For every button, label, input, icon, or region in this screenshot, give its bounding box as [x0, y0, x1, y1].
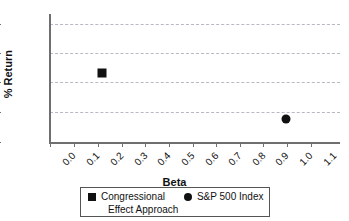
x-tick-2 — [98, 142, 99, 147]
y-tick-0: 0 — [0, 112, 1, 113]
y-tick-neg1: -1 — [0, 142, 1, 143]
x-tick-0 — [50, 142, 51, 147]
x-tick-3 — [122, 142, 123, 147]
x-tick-9 — [263, 142, 264, 147]
gridline-y0 — [50, 112, 340, 113]
legend-row-secondary: Effect Approach — [81, 204, 269, 217]
x-tick-label-3: 0.3 — [132, 150, 150, 168]
x-tick-label-1: 0.1 — [84, 150, 102, 168]
x-tick-4 — [145, 142, 146, 147]
y-tick-1: 1 — [0, 82, 1, 83]
plot-area — [50, 16, 340, 143]
x-tick-8 — [240, 142, 241, 147]
x-tick-10 — [287, 142, 288, 147]
y-tick-3: 3 — [0, 24, 1, 25]
chart-legend: Congressional S&P 500 Index Effect Appro… — [80, 187, 270, 217]
x-tick-label-11: 1.1 — [321, 150, 339, 168]
gridline-y1 — [50, 82, 340, 83]
legend-item-congressional-continuation: Effect Approach — [81, 204, 185, 216]
y-axis-title: % Return — [2, 2, 14, 50]
data-point-congressional-effect-approach[interactable] — [98, 69, 107, 78]
x-tick-label-2: 0.2 — [108, 150, 126, 168]
y-tick-2: 2 — [0, 53, 1, 54]
x-tick-label-0: 0.0 — [60, 150, 78, 168]
data-point-sp-500-index[interactable] — [282, 115, 291, 124]
x-axis-line — [50, 142, 340, 144]
x-tick-label-8: 0.8 — [250, 150, 268, 168]
legend-item-congressional-effect-approach[interactable]: Congressional — [81, 191, 184, 203]
legend-item-sp-500-index[interactable]: S&P 500 Index — [184, 191, 269, 203]
square-marker-icon — [88, 193, 96, 201]
x-tick-6 — [193, 142, 194, 147]
legend-label-congressional-line1: Congressional — [101, 191, 165, 203]
x-tick-label-7: 0.7 — [226, 150, 244, 168]
gridline-y2 — [50, 53, 340, 54]
y-axis-title-text: % Return — [2, 50, 14, 98]
x-tick-11 — [311, 142, 312, 147]
legend-label-congressional-line2: Effect Approach — [88, 204, 178, 216]
legend-row-primary: Congressional S&P 500 Index — [81, 191, 269, 204]
x-tick-label-10: 1.0 — [297, 150, 315, 168]
x-tick-1 — [74, 142, 75, 147]
x-tick-7 — [216, 142, 217, 147]
x-tick-label-6: 0.6 — [203, 150, 221, 168]
circle-marker-icon — [184, 193, 192, 201]
x-tick-label-9: 0.9 — [273, 150, 291, 168]
x-tick-label-4: 0.4 — [155, 150, 173, 168]
y-axis-line — [49, 14, 51, 144]
x-tick-label-5: 0.5 — [179, 150, 197, 168]
x-tick-5 — [169, 142, 170, 147]
gridline-y3 — [50, 24, 340, 25]
chart-screenshot: % Return 3 2 1 0 -1 0.0 0.1 0.2 0.3 0 — [0, 0, 349, 221]
legend-label-sp500-line1: S&P 500 Index — [197, 191, 264, 203]
